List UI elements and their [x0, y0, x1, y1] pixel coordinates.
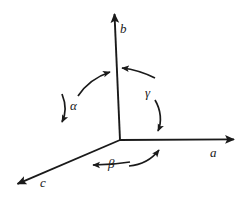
angle-arc-beta-right	[129, 150, 159, 166]
axis-label-c: c	[40, 176, 46, 189]
angle-label-beta: β	[108, 157, 114, 170]
crystal-axes-diagram: b a c α β γ	[0, 0, 252, 198]
angle-arc-gamma-lower	[155, 100, 160, 131]
axis-label-a: a	[210, 146, 217, 159]
angle-arc-alpha-lower	[62, 94, 65, 122]
angle-label-alpha: α	[70, 99, 77, 112]
axis-line-c	[18, 140, 121, 184]
angle-arc-alpha-upper	[78, 72, 110, 96]
axis-label-b: b	[120, 22, 127, 35]
axis-line-a	[120, 139, 234, 140]
angle-arc-gamma-upper	[122, 68, 155, 78]
angle-label-gamma: γ	[145, 86, 150, 99]
